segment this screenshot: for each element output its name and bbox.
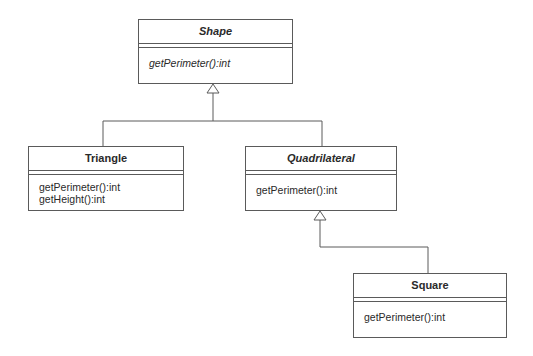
class-name: Shape <box>139 20 292 44</box>
operation: getPerimeter():int <box>364 311 506 323</box>
class-name: Square <box>354 274 506 298</box>
class-name: Quadrilateral <box>246 147 396 171</box>
operation: getHeight():int <box>39 193 183 205</box>
inheritance-arrowhead-shape <box>207 84 219 93</box>
class-quadrilateral[interactable]: Quadrilateral getPerimeter():int <box>245 146 397 211</box>
operations-compartment: getPerimeter():int <box>139 48 292 69</box>
operations-compartment: getPerimeter():int getHeight():int <box>29 175 183 205</box>
uml-class-diagram: Shape getPerimeter():int Triangle getPer… <box>0 0 533 356</box>
class-shape[interactable]: Shape getPerimeter():int <box>138 19 293 84</box>
operation: getPerimeter():int <box>149 57 292 69</box>
class-triangle[interactable]: Triangle getPerimeter():int getHeight():… <box>28 146 184 211</box>
inheritance-arrowhead-quadrilateral <box>314 211 326 220</box>
operations-compartment: getPerimeter():int <box>246 175 396 196</box>
operation: getPerimeter():int <box>39 181 183 193</box>
class-square[interactable]: Square getPerimeter():int <box>353 273 507 338</box>
operations-compartment: getPerimeter():int <box>354 302 506 323</box>
class-name: Triangle <box>29 147 183 171</box>
operation: getPerimeter():int <box>256 184 396 196</box>
